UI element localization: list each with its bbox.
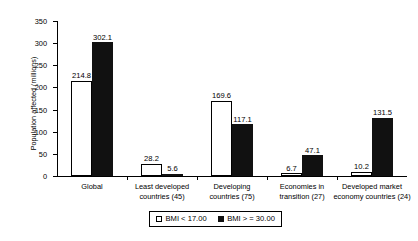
x-category-label-developing: Developing countries (75) [197, 182, 267, 201]
bar-value-developing-light: 169.6 [212, 91, 231, 100]
bar-economies-transition-bmi-high: 47.1 [302, 155, 323, 176]
x-category-label-least-developed-line1: Least developed [127, 182, 197, 192]
x-axis-line [57, 176, 407, 177]
y-tick-label-300: 300 [35, 39, 47, 48]
x-category-label-economies-transition-line1: Economies in [267, 182, 337, 192]
x-tick-sep-3 [267, 176, 268, 180]
bar-group-global: 214.8 302.1 [57, 21, 127, 176]
y-tick-label-0: 0 [43, 172, 47, 181]
bar-developing-bmi-high: 117.1 [232, 124, 253, 176]
bar-group-developed-market: 10.2 131.5 [337, 21, 407, 176]
x-tick-sep-1 [127, 176, 128, 180]
x-category-label-least-developed-line2: countries (45) [127, 192, 197, 202]
legend-label-bmi-high: BMI > = 30.00 [227, 214, 275, 223]
legend-label-bmi-low: BMI < 17.00 [166, 214, 207, 223]
x-tick-sep-4 [337, 176, 338, 180]
y-tick-0 [53, 176, 57, 177]
chart-legend: BMI < 17.00 BMI > = 30.00 [149, 211, 282, 227]
bar-least-developed-bmi-high: 5.6 [162, 174, 183, 177]
x-category-label-developed-market: Developed market economy countries (24) [333, 182, 411, 201]
y-tick-label-100: 100 [35, 127, 47, 136]
bar-value-developing-dark: 117.1 [233, 115, 251, 124]
x-category-label-developing-line2: countries (75) [197, 192, 267, 202]
bar-chart: Population affected (millions) 0 50 100 … [0, 0, 418, 241]
bar-developed-market-bmi-low: 10.2 [351, 172, 372, 177]
legend-swatch-bmi-high-icon [218, 216, 224, 222]
bar-value-economies-transition-dark: 47.1 [305, 146, 320, 155]
y-tick-label-200: 200 [35, 83, 47, 92]
y-tick-label-250: 250 [35, 61, 47, 70]
bar-group-developing: 169.6 117.1 [197, 21, 267, 176]
x-category-label-developing-line1: Developing [197, 182, 267, 192]
legend-item-bmi-low: BMI < 17.00 [156, 214, 207, 223]
bar-economies-transition-bmi-low: 6.7 [281, 173, 302, 176]
bar-global-bmi-high: 302.1 [92, 42, 113, 176]
y-tick-label-50: 50 [39, 149, 47, 158]
x-tick-sep-2 [197, 176, 198, 180]
bar-developing-bmi-low: 169.6 [211, 101, 232, 176]
x-category-label-economies-transition-line2: transition (27) [267, 192, 337, 202]
plot-area: 0 50 100 150 200 250 300 350 214.8 302.1… [57, 21, 407, 176]
bar-developed-market-bmi-high: 131.5 [372, 118, 393, 176]
legend-item-bmi-high: BMI > = 30.00 [218, 214, 275, 223]
x-category-label-global: Global [57, 182, 127, 192]
bar-least-developed-bmi-low: 28.2 [141, 164, 162, 177]
bar-value-developed-market-light: 10.2 [354, 162, 369, 171]
bar-global-bmi-low: 214.8 [71, 81, 92, 176]
bar-value-economies-transition-light: 6.7 [286, 164, 297, 173]
legend-swatch-bmi-low-icon [156, 216, 162, 222]
x-category-label-developed-market-line2: economy countries (24) [333, 192, 411, 202]
bar-value-least-developed-light: 28.2 [144, 154, 159, 163]
x-category-label-developed-market-line1: Developed market [333, 182, 411, 192]
x-category-label-global-line1: Global [57, 182, 127, 192]
bar-group-economies-transition: 6.7 47.1 [267, 21, 337, 176]
bar-value-global-light: 214.8 [72, 71, 91, 80]
bar-value-least-developed-dark: 5.6 [167, 164, 178, 173]
y-tick-label-150: 150 [35, 105, 47, 114]
bar-value-developed-market-dark: 131.5 [373, 108, 392, 117]
x-category-label-least-developed: Least developed countries (45) [127, 182, 197, 201]
y-tick-label-350: 350 [35, 17, 47, 26]
bar-value-global-dark: 302.1 [93, 33, 112, 42]
bar-group-least-developed: 28.2 5.6 [127, 21, 197, 176]
x-category-label-economies-transition: Economies in transition (27) [267, 182, 337, 201]
